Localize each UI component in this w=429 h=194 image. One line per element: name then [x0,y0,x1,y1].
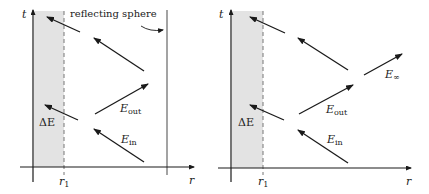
delta-e-label: ΔE [238,116,254,129]
reflecting-pointer-arrow [141,26,163,31]
right-panel: t r r1 ΔE Eout Ein E∞ [218,8,412,189]
e-out-label: Eout [325,103,348,117]
e-inf-arrow [364,54,402,75]
e-in-label: Ein [326,133,343,147]
delta-e-region [34,11,64,167]
e-inf-label: E∞ [384,68,400,82]
reflecting-sphere-label: reflecting sphere [70,8,157,19]
e-out-label: Eout [119,102,142,116]
r-axis-label: r [189,174,195,187]
t-axis-label: t [219,8,224,21]
diagram-canvas: t r r1 reflecting sphere ΔE Eout Ein t r… [0,0,429,194]
r1-label: r1 [258,175,268,189]
ray-arrow [94,38,144,71]
r1-label: r1 [59,175,69,189]
r-axis-label: r [406,175,412,188]
left-panel: t r r1 reflecting sphere ΔE Eout Ein [20,8,195,189]
t-axis-label: t [22,8,27,21]
e-in-label: Ein [120,133,137,147]
delta-e-label: ΔE [39,116,55,129]
ray-arrow [298,38,348,70]
delta-e-region [232,11,263,168]
